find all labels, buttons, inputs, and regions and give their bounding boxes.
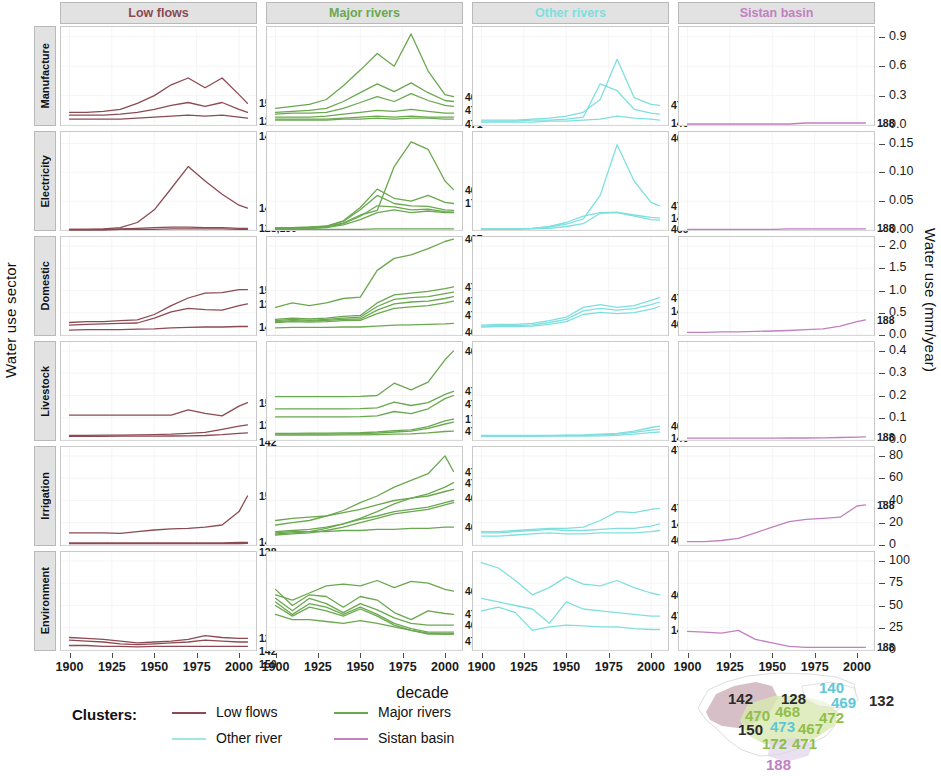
series-line (276, 391, 454, 408)
panel-environment-low-flows: 128142150 (60, 551, 257, 651)
column-strip-label: Low flows (128, 6, 188, 20)
y-tick-label: 1.0 (889, 283, 933, 297)
y-tick-mark (879, 172, 885, 173)
y-tick-mark (879, 291, 885, 292)
panel-environment-other-rivers: 469473140 (472, 551, 669, 651)
y-tick-label: 0.0 (889, 327, 933, 341)
panel-irrigation-major-rivers: 470471467468 (266, 446, 463, 546)
y-tick-label: 2.0 (889, 238, 933, 252)
y-tick-label: 0.00 (889, 222, 933, 236)
gridlines (679, 342, 874, 440)
inset-map-label-172: 172 (762, 735, 787, 752)
series-line (688, 437, 866, 438)
inset-map-label-132: 132 (869, 692, 894, 709)
legend-line-swatch (172, 712, 206, 714)
x-tick-mark (318, 653, 319, 658)
x-tick-mark (70, 653, 71, 658)
y-tick-mark (879, 125, 885, 126)
series-line (482, 563, 660, 595)
gridlines (267, 132, 462, 230)
series-line (70, 327, 248, 331)
y-tick-mark (879, 201, 885, 202)
row-strip-label: Livestock (39, 366, 51, 417)
y-tick-label: 0.1 (889, 410, 933, 424)
y-tick-label: 75 (889, 575, 933, 589)
x-tick-label: 1975 (379, 660, 427, 674)
legend-item-label: Other river (216, 730, 282, 746)
series-line (482, 298, 660, 326)
series-line (276, 229, 454, 230)
series-line (276, 195, 454, 228)
y-tick-label: 60 (889, 470, 933, 484)
series-line (276, 456, 454, 525)
x-tick-label: 1925 (294, 660, 342, 674)
legend-line-swatch (334, 738, 368, 740)
series-line (276, 297, 454, 322)
inset-map-label-150: 150 (738, 721, 763, 738)
x-tick-mark (482, 653, 483, 658)
panel-irrigation-sistan-basin: 188 (678, 446, 875, 546)
y-tick-label: 0 (889, 537, 933, 551)
column-strip-sistan-basin: Sistan basin (678, 2, 875, 24)
y-tick-mark (879, 313, 885, 314)
y-tick-label: 25 (889, 620, 933, 634)
series-line (70, 640, 248, 645)
series-line (276, 83, 454, 112)
panel-domestic-low-flows: 150128142 (60, 236, 257, 336)
x-tick-mark (688, 653, 689, 658)
gridlines (679, 237, 874, 335)
gridlines (473, 342, 668, 440)
legend-line-swatch (334, 712, 368, 714)
series-line (70, 403, 248, 416)
y-tick-mark (879, 456, 885, 457)
panel-manufacture-major-rivers: 467470471 (266, 26, 463, 126)
gridlines (679, 132, 874, 230)
y-tick-mark (879, 351, 885, 352)
panel-domestic-sistan-basin: 188 (678, 236, 875, 336)
x-tick-mark (239, 653, 240, 658)
y-tick-mark (879, 418, 885, 419)
faceted-line-chart-figure: Water use sector Water use (mm/year) dec… (0, 0, 941, 776)
panel-electricity-other-rivers: 473140469 (472, 131, 669, 231)
gridlines (679, 27, 874, 125)
row-strip-manufacture: Manufacture (34, 26, 56, 126)
series-line (276, 323, 454, 328)
legend-line-swatch (172, 738, 206, 740)
series-line (70, 425, 248, 436)
y-tick-mark (879, 628, 885, 629)
x-tick-label: 1950 (336, 660, 384, 674)
x-tick-mark (112, 653, 113, 658)
x-tick-mark (651, 653, 652, 658)
column-strip-label: Major rivers (329, 6, 400, 20)
series-line (688, 229, 866, 230)
y-tick-mark (879, 246, 885, 247)
inset-map-label-142: 142 (728, 690, 753, 707)
x-tick-mark (524, 653, 525, 658)
y-tick-label: 0.2 (889, 388, 933, 402)
series-line (70, 542, 248, 543)
row-strip-domestic: Domestic (34, 236, 56, 336)
x-tick-label: 1950 (542, 660, 590, 674)
x-tick-mark (276, 653, 277, 658)
y-tick-label: 0.0 (889, 432, 933, 446)
y-tick-label: 0.3 (889, 88, 933, 102)
x-tick-label: 1900 (46, 660, 94, 674)
series-line (688, 630, 866, 647)
y-tick-label: 0.6 (889, 58, 933, 72)
series-line (276, 189, 454, 228)
panel-livestock-low-flows: 150128142 (60, 341, 257, 441)
column-strip-label: Other rivers (535, 6, 606, 20)
series-line (70, 78, 248, 112)
gridlines (61, 342, 256, 440)
panel-domestic-other-rivers: 473140469 (472, 236, 669, 336)
y-tick-mark (879, 650, 885, 651)
y-tick-label: 0.05 (889, 193, 933, 207)
y-tick-mark (879, 501, 885, 502)
y-tick-mark (879, 144, 885, 145)
y-tick-mark (879, 230, 885, 231)
series-line (70, 290, 248, 323)
gridlines (61, 132, 256, 230)
column-strip-label: Sistan basin (740, 6, 814, 20)
series-line (276, 142, 454, 228)
gridlines (61, 552, 256, 650)
